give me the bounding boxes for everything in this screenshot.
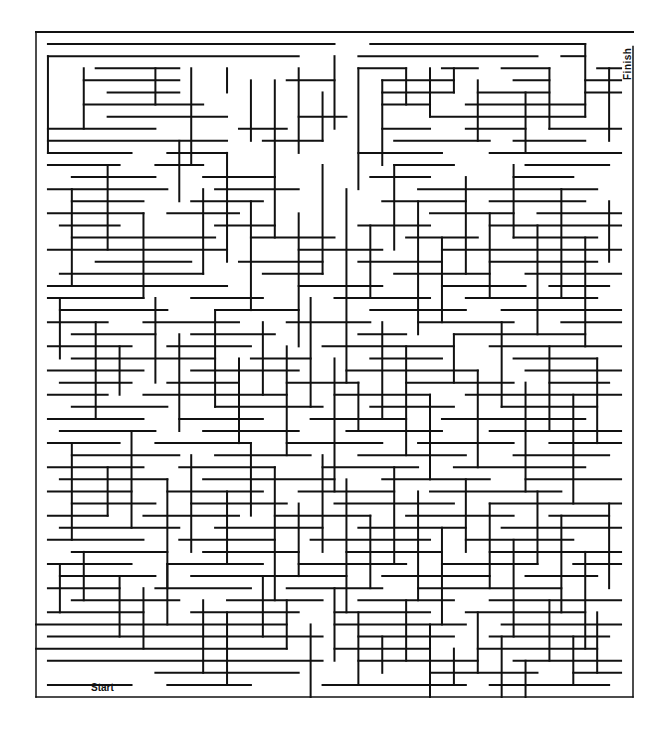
maze-walls [0, 0, 667, 735]
start-label: Start [91, 682, 114, 693]
maze-board: Start Finish [0, 0, 667, 735]
finish-label: Finish [622, 48, 633, 80]
